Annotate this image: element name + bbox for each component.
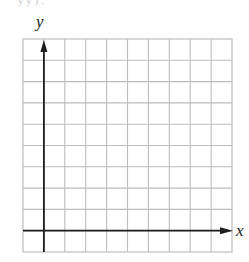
cropped-header-text: y y ) .	[18, 0, 44, 7]
y-axis-arrow-icon	[40, 40, 47, 52]
x-axis-label: x	[235, 221, 244, 240]
y-axis-label: y	[34, 12, 44, 31]
coordinate-grid-diagram: y y ) . y x	[0, 0, 249, 262]
grid-lines	[23, 39, 232, 252]
x-axis-arrow-icon	[220, 227, 233, 234]
